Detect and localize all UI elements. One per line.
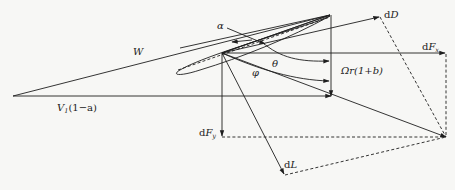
dL-projection-dashed	[285, 137, 446, 175]
alpha-pointer-left	[232, 40, 252, 42]
relative-velocity-W-line	[13, 15, 330, 96]
origin-to-tip	[222, 15, 330, 53]
dFx-label: dFx	[422, 41, 439, 54]
phi-label: φ	[252, 67, 259, 78]
W-label: W	[133, 46, 144, 57]
rotational-velocity-label: Ωr(1+b)	[340, 65, 383, 76]
alpha-label: α	[217, 20, 224, 31]
dL-label: dL	[284, 159, 297, 170]
dD-label: dD	[384, 9, 398, 20]
blade-upper-line	[180, 15, 330, 48]
theta-label: θ	[272, 58, 278, 69]
dD-projection-dashed	[380, 17, 446, 137]
dFy-label: dFy	[199, 127, 216, 140]
resultant-force-arrow	[222, 53, 446, 137]
velocity-force-diagram: W V1(1−a) α θ φ Ωr(1+b) dD dFx dFy dL	[0, 0, 455, 190]
axial-velocity-label: V1(1−a)	[57, 102, 97, 115]
